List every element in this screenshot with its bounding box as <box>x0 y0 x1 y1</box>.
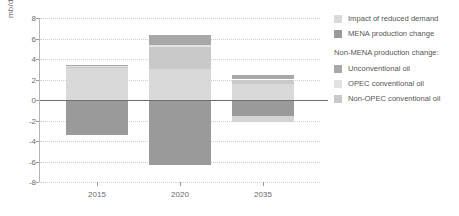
legend-item-label: MENA production change <box>348 29 434 38</box>
bar-segment <box>149 100 211 165</box>
y-tick-label: 8 <box>0 14 36 23</box>
bar-segment <box>66 66 128 67</box>
y-tick-mark <box>36 39 39 40</box>
bar-segment <box>232 116 294 121</box>
legend-item-label: Impact of reduced demand <box>348 14 438 23</box>
legend-item[interactable]: Unconventional oil <box>334 64 459 73</box>
legend: Impact of reduced demandMENA production … <box>334 14 459 109</box>
y-tick-mark <box>36 100 39 101</box>
legend-item[interactable]: Non-OPEC conventional oil <box>334 94 459 103</box>
y-tick-label: -8 <box>0 178 36 187</box>
legend-swatch-reduced-demand <box>334 15 342 23</box>
bar-segment <box>149 47 211 69</box>
legend-item[interactable]: Impact of reduced demand <box>334 14 459 23</box>
legend-swatch-unconventional <box>334 65 342 73</box>
y-tick-label: 2 <box>0 75 36 84</box>
bar-segment <box>149 35 211 44</box>
bar-segment <box>66 100 128 135</box>
y-tick-mark <box>36 182 39 183</box>
bar-segment <box>232 80 294 85</box>
bar-segment <box>149 69 211 100</box>
legend-item[interactable]: OPEC conventional oil <box>334 79 459 88</box>
plot-area: 86420-2-4-6-8 201520202035 <box>40 18 320 182</box>
y-tick-mark <box>36 18 39 19</box>
y-tick-label: 6 <box>0 34 36 43</box>
bar-segment <box>232 75 294 80</box>
y-tick-mark <box>36 121 39 122</box>
x-tick-mark <box>97 182 98 186</box>
chart-root: mb/d 86420-2-4-6-8 201520202035 Impact o… <box>0 0 459 216</box>
legend-item-label: Non-OPEC conventional oil <box>348 94 440 103</box>
y-tick-label: 0 <box>0 96 36 105</box>
y-tick-mark <box>36 80 39 81</box>
legend-group-heading: Non-MENA production change: <box>334 48 459 57</box>
legend-swatch-nonopec-conventional <box>334 95 342 103</box>
y-tick-label: -6 <box>0 157 36 166</box>
y-tick-mark <box>36 141 39 142</box>
bar-segment <box>232 84 294 100</box>
bar-segment <box>149 45 211 48</box>
bar-segment <box>66 67 128 68</box>
legend-item-label: Unconventional oil <box>348 64 410 73</box>
x-tick-label-2020: 2020 <box>149 190 211 199</box>
y-tick-label: -2 <box>0 116 36 125</box>
y-tick-mark <box>36 162 39 163</box>
zero-line <box>40 100 328 101</box>
x-tick-label-2035: 2035 <box>232 190 294 199</box>
x-tick-mark <box>180 182 181 186</box>
legend-item[interactable]: MENA production change <box>334 29 459 38</box>
legend-swatch-mena <box>334 30 342 38</box>
bar-segment <box>232 100 294 116</box>
x-tick-label-2015: 2015 <box>66 190 128 199</box>
y-tick-mark <box>36 59 39 60</box>
legend-item-label: OPEC conventional oil <box>348 79 424 88</box>
y-tick-label: 4 <box>0 55 36 64</box>
bar-segment <box>66 68 128 100</box>
bar-segment <box>66 65 128 66</box>
x-tick-mark <box>263 182 264 186</box>
legend-top-group: Impact of reduced demandMENA production … <box>334 14 459 38</box>
legend-nonmena-group: Unconventional oilOPEC conventional oilN… <box>334 64 459 103</box>
legend-swatch-opec-conventional <box>334 80 342 88</box>
y-tick-label: -4 <box>0 137 36 146</box>
